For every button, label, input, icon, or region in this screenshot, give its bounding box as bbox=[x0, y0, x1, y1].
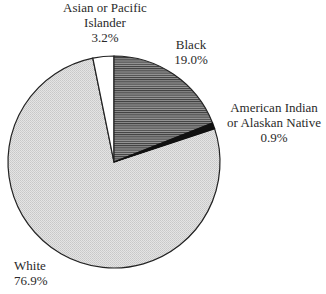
label-aian-line2: or Alaskan Native bbox=[222, 115, 326, 130]
label-black: Black 19.0% bbox=[166, 37, 216, 67]
pie-chart bbox=[0, 0, 326, 294]
label-black-pct: 19.0% bbox=[166, 52, 216, 67]
label-white-name: White bbox=[14, 258, 54, 273]
label-asian-line1: Asian or Pacific bbox=[52, 0, 158, 15]
label-asian-pct: 3.2% bbox=[52, 30, 158, 45]
label-white: White 76.9% bbox=[14, 258, 54, 288]
label-asian-line2: Islander bbox=[52, 15, 158, 30]
label-white-pct: 76.9% bbox=[14, 273, 54, 288]
label-american-indian-alaskan-native: American Indian or Alaskan Native 0.9% bbox=[222, 100, 326, 145]
label-black-name: Black bbox=[166, 37, 216, 52]
label-aian-pct: 0.9% bbox=[222, 130, 326, 145]
label-aian-line1: American Indian bbox=[222, 100, 326, 115]
label-asian-pacific-islander: Asian or Pacific Islander 3.2% bbox=[52, 0, 158, 45]
